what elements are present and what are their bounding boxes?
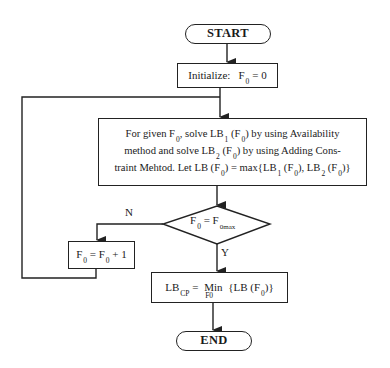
solve-line-1: For given F0, solve LB1 (F0) by using Av… [101, 125, 364, 142]
solve-process-box: For given F0, solve LB1 (F0) by using Av… [98, 118, 367, 186]
initialize-var: F0 [238, 69, 249, 83]
increment-box: F0 = F0 + 1 [68, 241, 135, 269]
solve-line-3: traint Mehtod. Let LB (F0) = max{LB1 (F0… [101, 159, 364, 176]
solve-line-2: method and solve LB2 (F0) by using Addin… [101, 142, 364, 159]
initialize-label: Initialize: [188, 69, 230, 83]
initialize-box: Initialize: F0 = 0 [177, 63, 278, 88]
edge-label-no: N [125, 206, 133, 218]
edge-label-yes: Y [221, 246, 229, 258]
start-terminal: START [185, 24, 271, 44]
end-label: END [200, 333, 227, 349]
decision-condition: F0 = F0max [190, 214, 235, 227]
initialize-value: = 0 [252, 69, 266, 83]
result-box: LBCP = MinF0 {LB (F0)} [151, 272, 288, 303]
increment-expression: F0 = F0 + 1 [76, 248, 127, 262]
edge-decision-increment [97, 224, 163, 240]
end-terminal: END [176, 331, 252, 351]
start-label: START [207, 26, 249, 42]
result-expression: LBCP = MinF0 {LB (F0)} [165, 281, 274, 295]
